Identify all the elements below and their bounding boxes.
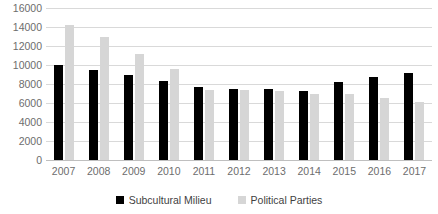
x-axis-tick-label: 2013 (257, 162, 292, 180)
bar[interactable] (54, 65, 63, 160)
x-axis: 2007200820092010201120122013201420152016… (46, 162, 432, 180)
bar[interactable] (415, 102, 424, 160)
bar[interactable] (100, 37, 109, 161)
bar[interactable] (135, 54, 144, 160)
legend-label: Subcultural Milieu (129, 194, 212, 206)
x-axis-tick-label: 2008 (81, 162, 116, 180)
y-axis-tick-label: 12000 (13, 40, 42, 52)
y-axis-tick-label: 4000 (19, 116, 42, 128)
bar[interactable] (404, 73, 413, 160)
x-axis-tick-label: 2017 (397, 162, 432, 180)
bar[interactable] (264, 89, 273, 160)
bar-group (46, 8, 81, 160)
bar[interactable] (240, 90, 249, 160)
x-axis-tick-label: 2012 (221, 162, 256, 180)
bar-groups (46, 8, 432, 160)
bar[interactable] (89, 70, 98, 160)
legend-item[interactable]: Political Parties (238, 194, 323, 206)
bar[interactable] (159, 81, 168, 160)
y-axis-tick-label: 8000 (19, 78, 42, 90)
y-axis-tick-label: 6000 (19, 97, 42, 109)
bar[interactable] (380, 98, 389, 160)
bar[interactable] (310, 94, 319, 161)
legend-item[interactable]: Subcultural Milieu (116, 194, 212, 206)
plot-area (46, 8, 432, 160)
bar-group (327, 8, 362, 160)
bar-chart: 1600014000120001000080006000400020000 20… (0, 0, 438, 214)
bar[interactable] (194, 87, 203, 160)
y-axis-tick-label: 0 (36, 154, 42, 166)
chart-plot-wrapper: 1600014000120001000080006000400020000 20… (0, 0, 438, 186)
bar[interactable] (275, 91, 284, 160)
bar-group (221, 8, 256, 160)
x-axis-tick-label: 2010 (151, 162, 186, 180)
bar[interactable] (334, 82, 343, 160)
x-axis-tick-label: 2009 (116, 162, 151, 180)
x-axis-tick-label: 2015 (327, 162, 362, 180)
bar[interactable] (299, 91, 308, 160)
y-axis: 1600014000120001000080006000400020000 (0, 8, 42, 160)
legend-label: Political Parties (251, 194, 323, 206)
bar[interactable] (170, 69, 179, 160)
bar-group (116, 8, 151, 160)
y-axis-tick-label: 16000 (13, 2, 42, 14)
bar[interactable] (369, 77, 378, 160)
y-axis-tick-label: 10000 (13, 59, 42, 71)
x-axis-tick-label: 2007 (46, 162, 81, 180)
axis-baseline (46, 160, 432, 161)
bar-group (362, 8, 397, 160)
x-axis-tick-label: 2014 (292, 162, 327, 180)
bar-group (257, 8, 292, 160)
bar-group (81, 8, 116, 160)
y-axis-tick-label: 2000 (19, 135, 42, 147)
chart-legend: Subcultural MilieuPolitical Parties (0, 190, 438, 210)
y-axis-tick-label: 14000 (13, 21, 42, 33)
bar-group (151, 8, 186, 160)
bar[interactable] (205, 90, 214, 160)
x-axis-tick-label: 2011 (186, 162, 221, 180)
bar-group (186, 8, 221, 160)
bar[interactable] (345, 94, 354, 160)
legend-swatch-icon (238, 196, 246, 204)
bar-group (292, 8, 327, 160)
bar[interactable] (65, 25, 74, 160)
bar-group (397, 8, 432, 160)
bar[interactable] (229, 89, 238, 160)
legend-swatch-icon (116, 196, 124, 204)
x-axis-tick-label: 2016 (362, 162, 397, 180)
bar[interactable] (124, 75, 133, 161)
